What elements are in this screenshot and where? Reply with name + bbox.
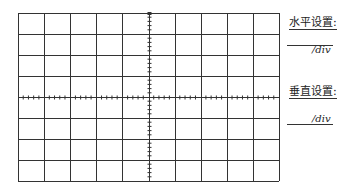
horizontal-setting-text: 水平设置: (289, 16, 337, 29)
vertical-setting-label: 垂直设置: (289, 85, 337, 99)
vertical-unit: /div (312, 112, 331, 125)
horizontal-setting-label: 水平设置: (289, 16, 337, 30)
vertical-setting-text: 垂直设置: (289, 85, 337, 98)
trigger-marker-icon (148, 12, 152, 15)
horizontal-unit: /div (312, 43, 331, 56)
